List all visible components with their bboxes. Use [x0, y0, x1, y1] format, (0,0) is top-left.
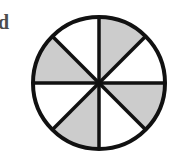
fraction-circle-figure: d [0, 0, 180, 157]
fraction-circle-graphic [28, 13, 170, 153]
part-label: d [0, 12, 9, 32]
